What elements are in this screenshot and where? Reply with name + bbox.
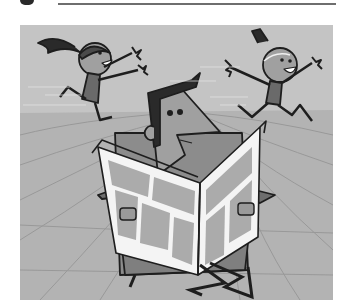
top-rule — [58, 3, 336, 5]
corner-mark — [20, 0, 34, 5]
illustration — [20, 25, 333, 300]
illustration-frame — [20, 25, 333, 300]
